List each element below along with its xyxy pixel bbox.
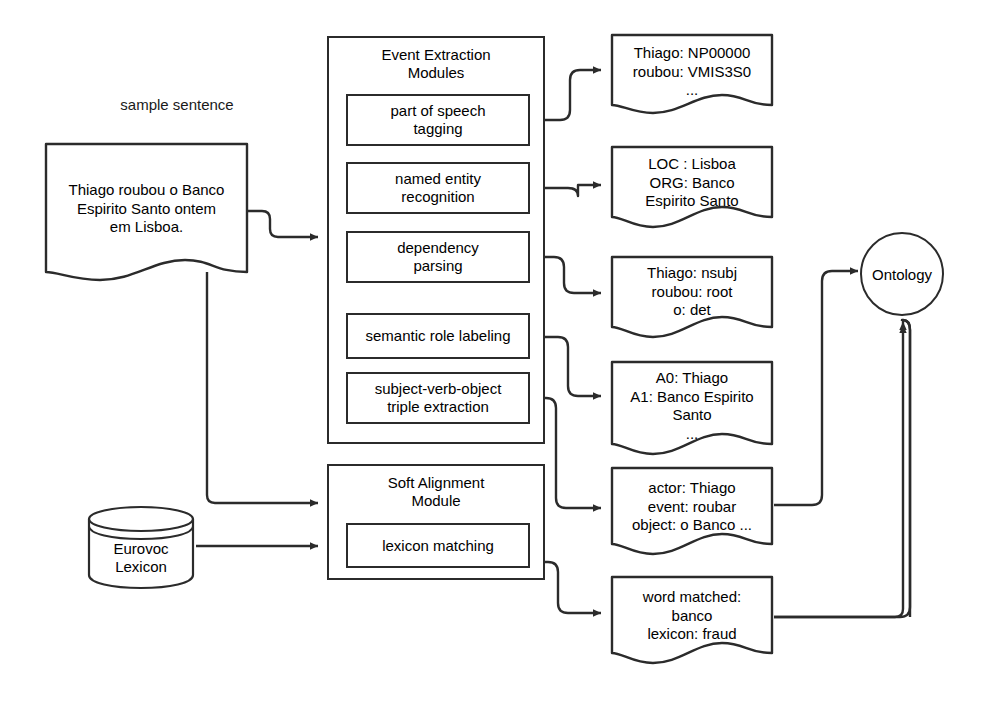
output-document-dependency-text: Thiago: nsubj roubou: root o: det bbox=[610, 264, 774, 320]
output-document-srl-text: A0: Thiago A1: Banco Espirito Santo ... bbox=[610, 369, 774, 443]
wire-lexicon-output-to-ontology-main bbox=[774, 322, 903, 617]
sample-sentence-text: Thiago roubou o Banco Espirito Santo ont… bbox=[44, 181, 249, 237]
output-document-lexicon-match-text: word matched: banco lexicon: fraud bbox=[610, 588, 774, 644]
diagram-canvas: sample sentence Thiago roubou o Banco Es… bbox=[0, 0, 994, 701]
ontology-node[interactable]: Ontology bbox=[860, 232, 944, 316]
wire-lexicon-output-to-ontology-seg bbox=[903, 320, 910, 617]
module-dependency-parsing[interactable]: dependency parsing bbox=[346, 231, 530, 283]
eurovoc-lexicon-datastore: Eurovoc Lexicon bbox=[86, 504, 196, 590]
output-document-svo-text: actor: Thiago event: roubar object: o Ba… bbox=[610, 479, 774, 535]
module-part-of-speech-tagging[interactable]: part of speech tagging bbox=[346, 94, 530, 146]
wire-sentence-to-event-modules bbox=[247, 211, 318, 237]
eurovoc-lexicon-label: Eurovoc Lexicon bbox=[86, 540, 196, 576]
output-document-ner: LOC : Lisboa ORG: Banco Espirito Santo bbox=[610, 145, 774, 233]
module-lexicon-matching[interactable]: lexicon matching bbox=[346, 523, 530, 568]
module-named-entity-recognition[interactable]: named entity recognition bbox=[346, 162, 530, 214]
ontology-label: Ontology bbox=[872, 266, 932, 283]
output-document-pos: Thiago: NP00000 roubou: VMIS3S0 ... bbox=[610, 33, 774, 119]
output-document-svo: actor: Thiago event: roubar object: o Ba… bbox=[610, 466, 774, 561]
output-document-lexicon-match: word matched: banco lexicon: fraud bbox=[610, 575, 774, 670]
sample-sentence-caption: sample sentence bbox=[82, 96, 272, 114]
output-document-srl: A0: Thiago A1: Banco Espirito Santo ... bbox=[610, 360, 774, 460]
soft-alignment-module-title: Soft Alignment Module bbox=[329, 474, 543, 510]
output-document-ner-text: LOC : Lisboa ORG: Banco Espirito Santo bbox=[610, 155, 774, 211]
wire-lexicon-output-to-ontology-leg bbox=[774, 320, 910, 617]
wire-svo-output-to-ontology bbox=[774, 271, 858, 505]
module-semantic-role-labeling[interactable]: semantic role labeling bbox=[346, 313, 530, 359]
module-svo-triple-extraction[interactable]: subject-verb-object triple extraction bbox=[346, 372, 530, 424]
wire-sentence-to-alignment bbox=[207, 272, 318, 503]
output-document-dependency: Thiago: nsubj roubou: root o: det bbox=[610, 255, 774, 343]
output-document-pos-text: Thiago: NP00000 roubou: VMIS3S0 ... bbox=[610, 44, 774, 100]
sample-sentence-document: Thiago roubou o Banco Espirito Santo ont… bbox=[44, 142, 249, 282]
event-extraction-modules-title: Event Extraction Modules bbox=[329, 46, 543, 82]
